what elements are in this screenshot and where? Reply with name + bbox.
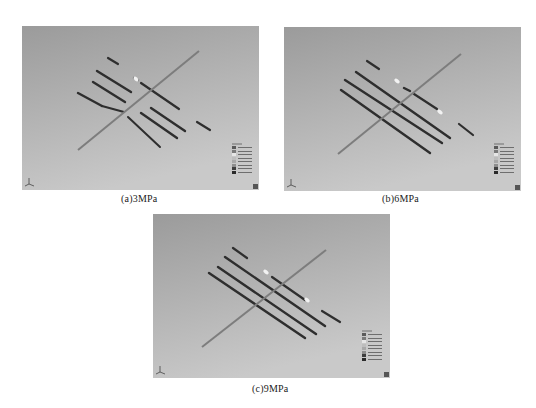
legend-value [238, 154, 252, 155]
legend-value [238, 161, 252, 162]
fracture-plot [22, 26, 259, 190]
panel-caption-b: (b)6MPa [382, 193, 419, 204]
logo-mark-icon [253, 184, 258, 189]
panel-caption-a: (a)3MPa [121, 193, 157, 204]
simulation-panel-c [153, 214, 390, 378]
legend-value [238, 168, 252, 169]
legend-value [368, 359, 382, 360]
logo-mark-icon [384, 372, 389, 377]
color-legend [362, 330, 386, 361]
fracture-plot [284, 27, 521, 191]
legend-row [232, 171, 256, 174]
legend-value [500, 154, 514, 155]
simulation-panel-a [22, 26, 259, 190]
legend-value [238, 147, 252, 148]
simulation-panel-b [284, 27, 521, 191]
legend-title [362, 330, 372, 332]
legend-value [238, 158, 252, 159]
legend-swatch [362, 358, 366, 361]
axis-triad-icon [156, 366, 166, 375]
legend-value [500, 165, 514, 166]
plot-background [153, 214, 390, 378]
legend-swatch [494, 171, 498, 174]
legend-value [500, 158, 514, 159]
axis-triad-icon [25, 178, 35, 187]
legend-title [494, 143, 504, 145]
legend-value [368, 352, 382, 353]
legend-value [500, 151, 514, 152]
legend-value [368, 345, 382, 346]
logo-mark-icon [515, 185, 520, 190]
legend-value [500, 147, 514, 148]
legend-swatch [232, 171, 236, 174]
axis-triad-icon [287, 179, 297, 188]
plot-background [22, 26, 259, 190]
legend-value [500, 168, 514, 169]
legend-value [238, 165, 252, 166]
legend-value [238, 151, 252, 152]
legend-row [362, 358, 386, 361]
legend-value [500, 172, 514, 173]
legend-row [494, 171, 518, 174]
legend-value [368, 338, 382, 339]
legend-value [238, 172, 252, 173]
plot-background [284, 27, 521, 191]
panel-caption-c: (c)9MPa [252, 383, 288, 394]
fracture-plot [153, 214, 390, 378]
color-legend [232, 143, 256, 174]
legend-title [232, 143, 242, 145]
legend-value [368, 341, 382, 342]
legend-value [368, 355, 382, 356]
color-legend [494, 143, 518, 174]
legend-value [368, 334, 382, 335]
legend-value [368, 348, 382, 349]
legend-value [500, 161, 514, 162]
